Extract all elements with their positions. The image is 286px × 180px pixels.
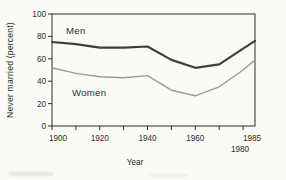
scan-smudge (150, 174, 188, 177)
series-label-women: Women (72, 87, 106, 98)
scan-smudge (8, 172, 54, 176)
never-married-line-chart: 190019201940196019851980020406080100 Men… (0, 0, 286, 180)
x-axis-title: Year (127, 158, 144, 167)
y-tick-label: 60 (37, 55, 47, 64)
x-tick-label: 1985 (243, 134, 262, 143)
y-tick-label: 40 (37, 77, 47, 86)
x-tick-label: 1960 (186, 134, 205, 143)
y-tick-label: 100 (32, 10, 46, 19)
y-axis-title: Never married (percent) (5, 22, 15, 118)
scanned-chart-page: 190019201940196019851980020406080100 Men… (0, 0, 286, 180)
series-label-men: Men (66, 25, 86, 36)
y-tick-label: 20 (37, 100, 47, 109)
x-tick-label: 1980 (231, 145, 250, 154)
y-tick-label: 0 (41, 122, 46, 131)
y-tick-label: 80 (37, 32, 47, 41)
x-tick-label: 1900 (49, 134, 68, 143)
x-tick-label: 1940 (138, 134, 157, 143)
x-tick-label: 1920 (91, 134, 110, 143)
series-line-men (52, 41, 255, 68)
